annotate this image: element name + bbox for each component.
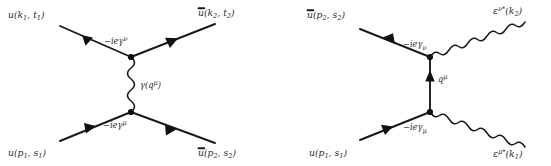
label-photon-propagator: γ(qμ) [140,79,161,90]
arrow-propagator [425,70,434,82]
vertex-dot-top [427,54,433,60]
feynman-diagram-figure: u(k1, t1) u(k2, t2) u(p1, s1) u(p2, s2) … [0,0,551,166]
label-vertex-top: −ieγν [403,39,427,52]
outgoing-photon-line-top [430,22,525,57]
compton-scattering-diagram: u(p2, s2) εν*(k2) u(p1, s1) εμ*(k1) −ieγ… [275,0,551,166]
label-outgoing-photon-bottom: εμ*(k1) [493,148,523,162]
outgoing-photon-line-bottom [430,112,525,147]
label-fermion-propagator: qμ [438,73,448,84]
label-vertex-top: −ieγν [104,35,128,46]
label-incoming-top: u(p2, s2) [307,9,345,22]
vertex-dot-bottom [427,109,433,115]
vertex-dot-top [128,54,134,60]
label-vertex-bottom: −ieγμ [103,119,127,130]
photon-propagator-line [128,57,135,112]
electron-electron-scattering-diagram: u(k1, t1) u(k2, t2) u(p1, s1) u(p2, s2) … [0,0,276,166]
label-vertex-bottom: −ieγμ [403,122,427,135]
vertex-dot-bottom [128,109,134,115]
label-incoming-bottom: u(p1, s1) [309,147,347,160]
arrow-incoming-bottom [84,123,96,134]
label-outgoing-bottom: u(p2, s2) [198,147,236,160]
arrow-outgoing-top [382,33,395,44]
label-outgoing-top: u(k2, t2) [198,7,235,20]
label-outgoing-photon-top: εν*(k2) [493,5,523,19]
label-incoming-top: u(k1, t1) [8,9,45,22]
label-incoming-bottom: u(p1, s1) [8,147,46,160]
